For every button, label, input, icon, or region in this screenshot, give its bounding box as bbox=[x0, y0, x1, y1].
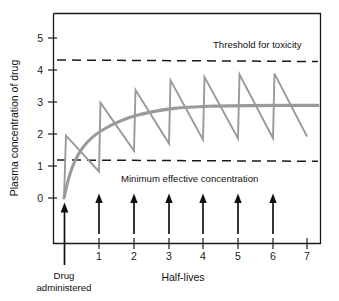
initial-dose-arrow bbox=[61, 203, 69, 266]
dose-caption-line2: administered bbox=[37, 282, 92, 293]
dose-caption-line1: Drug bbox=[54, 270, 75, 281]
x-tick-label-7: 7 bbox=[304, 250, 310, 262]
dose-arrow-1 bbox=[95, 194, 102, 235]
y-axis-title: Plasma concentration of drug bbox=[8, 60, 20, 197]
x-axis-title: Half-lives bbox=[161, 271, 204, 283]
y-axis-ticks bbox=[48, 38, 57, 198]
dose-arrow-2 bbox=[130, 194, 137, 235]
x-tick-label-3: 3 bbox=[166, 250, 172, 262]
y-tick-label-0: 0 bbox=[37, 192, 43, 204]
dose-arrow-3 bbox=[165, 194, 172, 235]
dose-arrow-group bbox=[95, 194, 276, 235]
x-tick-label-5: 5 bbox=[235, 250, 241, 262]
minimum-effective-concentration-line bbox=[57, 160, 318, 161]
dose-arrow-6 bbox=[269, 194, 276, 235]
pharmacokinetics-figure: 5 4 3 2 1 0 1 2 3 4 5 6 7 Threshold for … bbox=[0, 0, 339, 301]
dose-arrow-5 bbox=[234, 194, 241, 235]
y-tick-label-2: 2 bbox=[37, 128, 43, 140]
x-tick-label-4: 4 bbox=[200, 250, 206, 262]
toxicity-threshold-line bbox=[57, 60, 318, 62]
x-tick-label-6: 6 bbox=[270, 250, 276, 262]
y-tick-label-4: 4 bbox=[37, 64, 43, 76]
y-tick-label-5: 5 bbox=[37, 32, 43, 44]
x-tick-label-1: 1 bbox=[96, 250, 102, 262]
y-tick-label-1: 1 bbox=[37, 160, 43, 172]
dose-arrow-4 bbox=[199, 194, 206, 235]
minimum-effective-concentration-label: Minimum effective concentration bbox=[121, 173, 258, 184]
chart-canvas: 5 4 3 2 1 0 1 2 3 4 5 6 7 Threshold for … bbox=[0, 0, 339, 301]
x-tick-label-2: 2 bbox=[131, 250, 137, 262]
y-tick-label-3: 3 bbox=[37, 96, 43, 108]
toxicity-threshold-label: Threshold for toxicity bbox=[213, 39, 302, 50]
